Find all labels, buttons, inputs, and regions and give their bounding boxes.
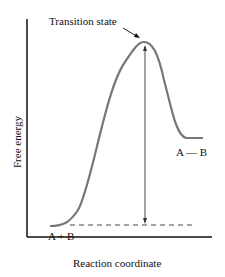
- energy-diagram: [0, 0, 225, 277]
- arrow-head-up: [143, 45, 147, 51]
- pointer-head: [134, 33, 140, 38]
- product-label: A — B: [176, 146, 207, 158]
- y-axis-label: Free energy: [11, 116, 23, 168]
- energy-curve: [50, 42, 203, 226]
- reactants-label: A + B: [48, 230, 74, 242]
- transition-state-label: Transition state: [49, 15, 117, 27]
- x-axis-label: Reaction coordinate: [73, 257, 161, 269]
- arrow-head-down: [143, 218, 147, 224]
